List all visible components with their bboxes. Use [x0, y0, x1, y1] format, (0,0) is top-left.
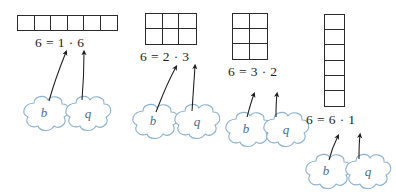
array-cell [146, 29, 163, 44]
array-cell [179, 14, 196, 29]
array-cell [84, 16, 101, 30]
array-grid-3-by-2 [232, 13, 268, 60]
array-grid-1-by-6 [17, 15, 118, 31]
array-cell [325, 45, 344, 60]
top-crop-marks-left [46, 0, 48, 9]
cloud-letter-q-3: q [283, 122, 290, 137]
cloud-letter-q-1: q [85, 106, 92, 121]
array-cell [68, 16, 85, 30]
top-crop-marks-right [168, 0, 170, 9]
equation-label-3: 6 = 3 · 2 [228, 65, 277, 79]
array-cell [325, 91, 344, 106]
equation-label-4: 6 = 6 · 1 [306, 113, 355, 127]
array-cell [51, 16, 68, 30]
cloud-letter-q-4: q [365, 164, 372, 179]
cloud-q-4[interactable]: q [340, 150, 396, 192]
array-cell [18, 16, 35, 30]
array-cell [233, 44, 250, 59]
array-cell [250, 44, 267, 59]
cloud-q-2[interactable]: q [169, 100, 225, 142]
array-cell [325, 61, 344, 76]
array-cell [101, 16, 118, 30]
cloud-q-1[interactable]: q [60, 92, 116, 134]
array-cell [325, 30, 344, 45]
array-cell [179, 29, 196, 44]
array-cell [325, 15, 344, 30]
cloud-letter-b-3: b [243, 121, 250, 136]
cloud-letter-b-4: b [323, 163, 330, 178]
array-cell [146, 14, 163, 29]
equation-label-1: 6 = 1 · 6 [35, 36, 84, 50]
array-cell [325, 76, 344, 91]
array-grid-6-by-1 [324, 14, 345, 107]
cloud-letter-b-1: b [41, 105, 48, 120]
array-cell [250, 14, 267, 29]
array-grid-2-by-3 [145, 13, 197, 45]
array-cell [233, 29, 250, 44]
cloud-letter-q-2: q [194, 114, 201, 129]
array-cell [163, 29, 180, 44]
equation-label-2: 6 = 2 · 3 [140, 50, 189, 64]
array-cell [250, 29, 267, 44]
array-cell [35, 16, 52, 30]
array-cell [163, 14, 180, 29]
array-cell [233, 14, 250, 29]
cloud-letter-b-2: b [150, 113, 157, 128]
